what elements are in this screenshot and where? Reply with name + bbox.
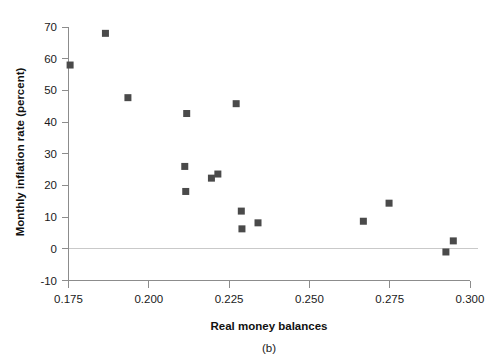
x-tick-label: 0.275	[375, 293, 404, 305]
figure-caption: (b)	[262, 342, 276, 354]
data-point	[208, 175, 215, 182]
data-point	[183, 110, 190, 117]
scatter-plot: -10010203040506070 Monthly inflation rat…	[0, 0, 498, 360]
data-point	[67, 62, 74, 69]
x-tick-label: 0.200	[134, 293, 163, 305]
x-axis-title: Real money balances	[211, 320, 328, 332]
y-tick-label: 70	[44, 21, 57, 33]
data-point	[450, 237, 457, 244]
data-point	[102, 30, 109, 37]
y-tick-label: 40	[44, 116, 57, 128]
y-axis-title: Monthly inflation rate (percent)	[14, 67, 26, 236]
data-point	[124, 94, 131, 101]
data-point	[181, 163, 188, 170]
y-tick-labels: -10010203040506070	[40, 21, 57, 287]
x-tick-labels: 0.1750.2000.2250.2500.2750.300	[54, 293, 484, 305]
data-point	[255, 219, 262, 226]
data-point	[360, 218, 367, 225]
y-tick-label: 30	[44, 148, 57, 160]
y-tick-label: 60	[44, 53, 57, 65]
x-tick-label: 0.250	[295, 293, 324, 305]
x-tick-marks	[69, 281, 471, 289]
data-point	[233, 100, 240, 107]
figure-panel-b: -10010203040506070 Monthly inflation rat…	[0, 0, 498, 360]
y-tick-label: 20	[44, 179, 57, 191]
data-point	[238, 208, 245, 215]
data-point-series	[67, 30, 457, 256]
y-tick-label: 50	[44, 84, 57, 96]
data-point	[182, 188, 189, 195]
y-tick-label: -10	[40, 275, 57, 287]
data-point	[238, 225, 245, 232]
x-tick-label: 0.300	[456, 293, 485, 305]
x-axis: 0.1750.2000.2250.2500.2750.300 Real mone…	[54, 281, 484, 333]
data-point	[386, 200, 393, 207]
y-tick-label: 10	[44, 211, 57, 223]
y-axis: -10010203040506070 Monthly inflation rat…	[14, 21, 69, 287]
data-point	[442, 248, 449, 255]
x-tick-label: 0.225	[215, 293, 244, 305]
data-point	[214, 171, 221, 178]
y-tick-label: 0	[51, 243, 57, 255]
x-tick-label: 0.175	[54, 293, 83, 305]
